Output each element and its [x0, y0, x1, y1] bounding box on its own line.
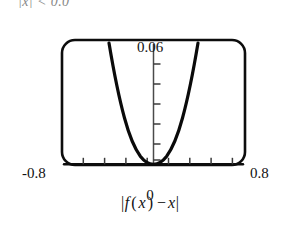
- clipped-top-text: |x| < 0.0: [18, 0, 198, 8]
- y-max-label: 0.06: [0, 40, 300, 55]
- caption-variable-x-inner: x: [139, 194, 146, 211]
- figure-caption: |f(x)−x|: [0, 194, 300, 212]
- caption-minus-sign: −: [155, 194, 168, 211]
- figure-container: |x| < 0.0: [0, 0, 300, 241]
- x-min-label: -0.8: [22, 166, 46, 181]
- x-max-label: 0.8: [250, 166, 269, 181]
- caption-close-bar: |: [175, 194, 179, 211]
- caption-open-paren: (: [129, 194, 138, 211]
- plot-area: 0.06 -0.8 0.8 0: [0, 18, 300, 178]
- caption-close-paren: ): [146, 194, 155, 211]
